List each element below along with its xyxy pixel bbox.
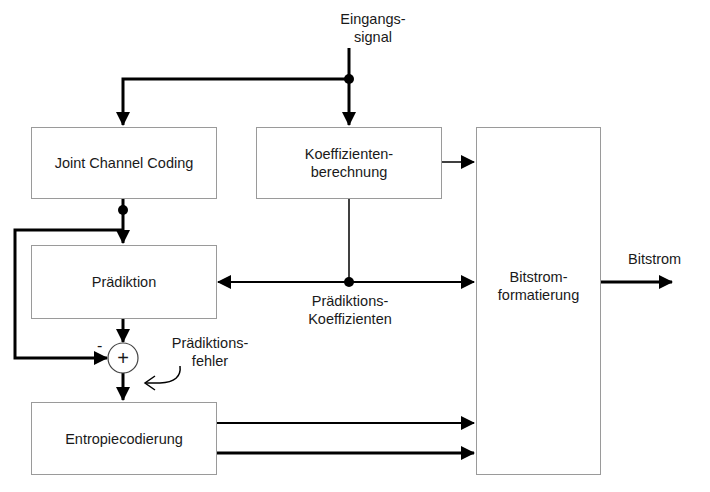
block-koeffizientenberechnung: Koeffizienten- berechnung — [256, 127, 442, 199]
praediktionsfehler-label: Prädiktions- fehler — [160, 334, 260, 370]
block-praediktion: Prädiktion — [31, 245, 217, 319]
minus-sign: - — [97, 337, 102, 355]
junction-dot-input — [344, 74, 354, 84]
praediktions-koeffizienten-label: Prädiktions- Koeffizienten — [290, 292, 410, 328]
block-joint-channel-coding-label: Joint Channel Coding — [55, 154, 194, 172]
junction-dot-jcc — [118, 205, 128, 215]
block-entropiecodierung: Entropiecodierung — [31, 402, 217, 475]
block-joint-channel-coding: Joint Channel Coding — [31, 127, 217, 199]
input-signal-label: Eingangs- signal — [318, 10, 428, 46]
block-entropiecodierung-label: Entropiecodierung — [65, 430, 183, 448]
block-praediktion-label: Prädiktion — [92, 273, 156, 291]
block-koeffizientenberechnung-label: Koeffizienten- berechnung — [305, 145, 393, 181]
bitstrom-output-label: Bitstrom — [628, 250, 681, 268]
block-bitstromformatierung: Bitstrom- formatierung — [476, 127, 601, 475]
sum-plus-icon: + — [113, 347, 133, 369]
junction-dot-coefficients — [344, 277, 354, 287]
block-bitstromformatierung-label: Bitstrom- formatierung — [498, 268, 579, 304]
